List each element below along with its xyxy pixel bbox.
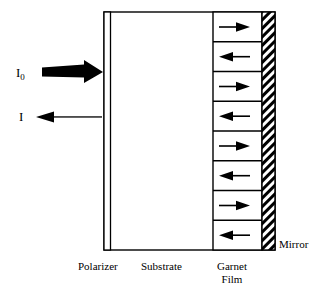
garnet-film-label-line2: Film bbox=[210, 273, 254, 286]
polarizer-strip bbox=[104, 12, 111, 250]
mirror-strip bbox=[262, 12, 275, 250]
mirror-layer bbox=[262, 12, 275, 250]
garnet-film-label-line1: Garnet bbox=[210, 260, 254, 273]
incident-ray-arrow bbox=[42, 60, 103, 83]
substrate-label: Substrate bbox=[141, 260, 182, 273]
polarizer-layer bbox=[104, 12, 111, 250]
incident-ray-label: I0 bbox=[16, 65, 25, 82]
garnet-film-layer bbox=[213, 12, 262, 250]
mirror-label: Mirror bbox=[279, 238, 308, 251]
diagram-canvas: I0 I Polarizer Substrate Garnet Film Mir… bbox=[0, 0, 322, 305]
polarizer-label: Polarizer bbox=[78, 260, 118, 273]
reflected-ray-label: I bbox=[19, 109, 23, 125]
incident-ray-label-subscript: 0 bbox=[20, 72, 25, 82]
garnet-film-label: Garnet Film bbox=[210, 260, 254, 286]
reflected-ray-arrow bbox=[36, 112, 102, 123]
